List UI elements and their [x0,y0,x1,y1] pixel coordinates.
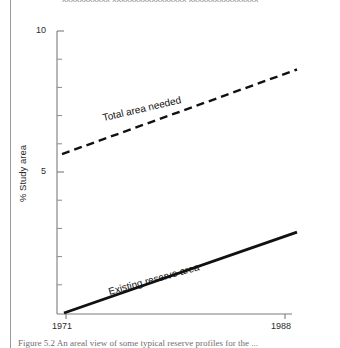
figure-caption: Figure 5.2 An areal view of some typical… [18,338,336,348]
series-total-area-needed [62,70,297,155]
x-tick-label-1988: 1988 [271,321,291,331]
y-tick-label-5: 5 [41,166,46,176]
chart-canvas [0,0,340,348]
figure-panel: xxxxxxxxxxx xxxxxxxxxxxxxxxxx xxxxxxxxxx… [0,0,340,348]
y-tick-label-10: 10 [36,25,46,35]
y-axis-label: % Study area [17,134,28,214]
x-tick-label-1971: 1971 [52,321,72,331]
